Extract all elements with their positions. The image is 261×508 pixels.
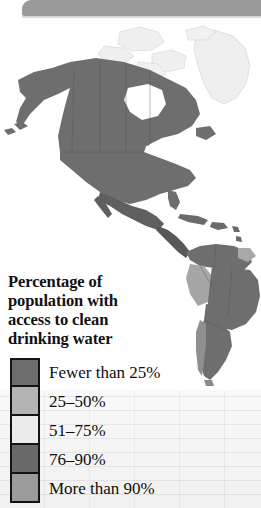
legend-swatch-76-90 [10,445,40,474]
legend-title-block: Percentage of population with access to … [8,272,228,348]
legend-swatch-25-50 [10,387,40,416]
legend-label: More than 90% [49,480,155,497]
legend-swatch-51-75 [10,416,40,445]
legend-swatch-more-than-90 [10,474,40,503]
legend-row: 76–90% [10,445,255,474]
legend-row: 25–50% [10,387,255,416]
legend-row: Fewer than 25% [10,358,255,387]
legend-label: 76–90% [49,451,106,468]
legend-row: More than 90% [10,474,255,503]
top-decorative-bar [22,0,261,16]
legend-items-list: Fewer than 25% 25–50% 51–75% 76–90% More… [10,358,255,503]
legend-label: Fewer than 25% [49,364,160,381]
legend-swatch-fewer-than-25 [10,358,40,387]
legend-label: 51–75% [49,422,106,439]
legend-label: 25–50% [49,393,106,410]
legend-row: 51–75% [10,416,255,445]
map-figure: Percentage of population with access to … [0,0,261,508]
legend-title: Percentage of population with access to … [8,272,228,348]
